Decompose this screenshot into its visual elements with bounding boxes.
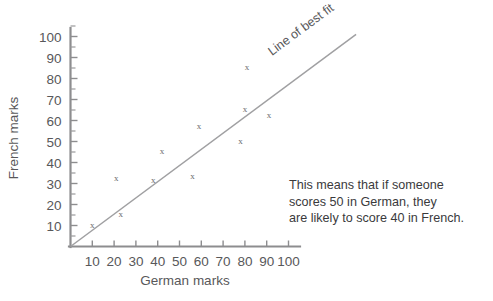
y-axis-tick-label: 10 <box>46 219 61 234</box>
data-point-marker: x <box>197 121 202 131</box>
y-axis-tick-label: 20 <box>46 198 61 213</box>
interpretation-note: This means that if someone scores 50 in … <box>289 177 485 227</box>
data-point-marker: x <box>245 62 250 72</box>
data-point-marker: x <box>160 146 165 156</box>
scatter-plot-figure: 102030405060708090100 102030405060708090… <box>0 0 493 301</box>
x-axis-tick-label: 70 <box>216 254 231 269</box>
x-axis-tick-label: 30 <box>128 254 143 269</box>
data-point-marker: x <box>267 110 272 120</box>
y-axis-tick-label: 70 <box>46 93 61 108</box>
x-axis-tick-label: 40 <box>150 254 165 269</box>
axes-group <box>69 28 300 247</box>
y-axis-tick-label: 40 <box>46 156 61 171</box>
x-axis-tick-label: 60 <box>194 254 209 269</box>
line-of-best-fit-label-text: Line of best fit <box>265 0 336 58</box>
x-axis-tick-label: 100 <box>277 254 300 269</box>
data-point-marker: x <box>118 209 123 219</box>
data-point-marker: x <box>114 173 119 183</box>
data-point-marker: x <box>190 171 195 181</box>
scatter-plot-canvas: 102030405060708090100 102030405060708090… <box>0 0 493 301</box>
x-axis-tick-label: 20 <box>107 254 122 269</box>
y-axis-tick-label: 80 <box>46 72 61 87</box>
y-axis-tick-label: 60 <box>46 114 61 129</box>
x-axis-title: German marks <box>140 273 230 288</box>
data-point-marker: x <box>151 175 156 185</box>
data-point-marker: x <box>90 220 95 230</box>
y-axis-tick-labels: 102030405060708090100 <box>39 30 62 234</box>
data-point-marker: x <box>243 104 248 114</box>
y-axis-tick-label: 30 <box>46 177 61 192</box>
y-axis-ticks <box>71 26 78 236</box>
y-axis-tick-label: 50 <box>46 135 61 150</box>
x-axis-tick-label: 50 <box>172 254 187 269</box>
y-axis-tick-label: 90 <box>46 51 61 66</box>
y-axis-tick-label: 100 <box>39 30 62 45</box>
x-axis-tick-label: 80 <box>237 254 252 269</box>
x-axis-tick-labels: 102030405060708090100 <box>85 254 300 269</box>
y-axis-title: French marks <box>6 96 21 179</box>
data-point-marker: x <box>238 136 243 146</box>
x-axis-tick-label: 90 <box>259 254 274 269</box>
x-axis-tick-label: 10 <box>85 254 100 269</box>
data-point-markers: xxxxxxxxxxx <box>90 62 272 230</box>
line-of-best-fit-label: Line of best fit <box>265 0 336 58</box>
